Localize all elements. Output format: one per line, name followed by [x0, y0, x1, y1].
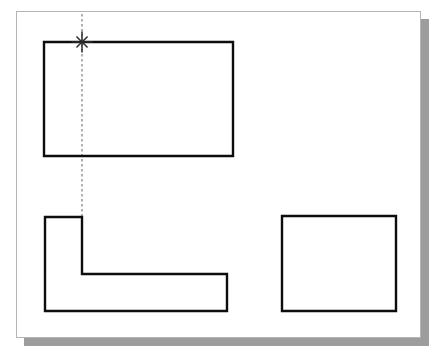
drawing-sheet[interactable]: [16, 11, 421, 338]
geometry-svg: [17, 12, 421, 338]
l-shape-polygon[interactable]: [45, 217, 227, 311]
right-rectangle[interactable]: [282, 216, 396, 311]
snap-marker-icon: [72, 32, 92, 52]
geometry-layer: [17, 12, 420, 337]
sheet-shadow-right: [421, 19, 429, 346]
sheet-shadow-bottom: [24, 338, 429, 346]
screenshot-root: [0, 0, 441, 356]
top-rectangle[interactable]: [44, 42, 233, 156]
